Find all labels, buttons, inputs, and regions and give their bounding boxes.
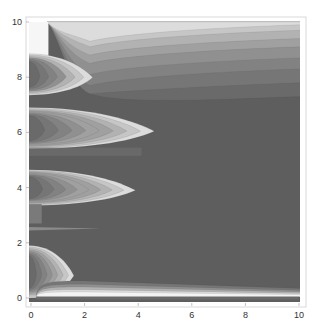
y-tick-label: 4 [17,183,22,193]
x-tick-label: 10 [294,310,304,320]
x-tick-label: 6 [189,310,194,320]
x-tick-label: 4 [136,310,141,320]
x-tick-label: 0 [28,310,33,320]
y-tick-label: 6 [17,127,22,137]
y-tick-label: 10 [12,17,22,27]
y-tick-label: 8 [17,72,22,82]
contour-plot: 0246810 0246810 [0,0,320,331]
contour-top-left-corner [29,22,48,58]
contour-edge-band [29,204,42,223]
plot-area [29,22,301,303]
y-tick-label: 0 [17,293,22,303]
contour-bottom-edge [36,297,299,300]
x-tick-label: 2 [82,310,87,320]
y-tick-label: 2 [17,238,22,248]
x-tick-label: 8 [243,310,248,320]
contour-band [29,148,142,156]
